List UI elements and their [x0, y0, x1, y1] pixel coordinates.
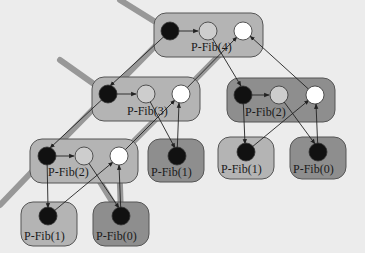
label-fib3: P-Fib(3) [127, 104, 168, 118]
edges [47, 31, 318, 216]
pfib-dag: P-Fib(4) P-Fib(3) P-Fib(2) P-Fib(2) P-Fi… [0, 0, 365, 253]
strand-gray-fib2-left [75, 147, 93, 165]
strand-white-fib2-right [306, 86, 324, 104]
strand-gray-fib3 [137, 85, 155, 103]
strand-black-fib1-bottom [39, 207, 57, 225]
label-fib1-right: P-Fib(1) [221, 162, 262, 176]
label-fib0-bottom: P-Fib(0) [96, 229, 137, 243]
strand-black-fib1-middle [168, 147, 186, 165]
strand-black-fib0-bottom [112, 207, 130, 225]
label-fib2-right: P-Fib(2) [245, 105, 286, 119]
strand-black-fib0-right [309, 143, 327, 161]
strand-black-fib4 [161, 22, 179, 40]
strand-gray-fib4 [199, 22, 217, 40]
strand-white-fib3 [172, 85, 190, 103]
strand-white-fib4 [234, 22, 252, 40]
strand-black-fib3 [99, 85, 117, 103]
strand-black-fib2-left [38, 147, 56, 165]
label-fib0-right: P-Fib(0) [293, 162, 334, 176]
strand-black-fib2-right [234, 86, 252, 104]
strand-gray-fib2-right [270, 86, 288, 104]
label-fib1-middle: P-Fib(1) [151, 165, 192, 179]
label-fib2-left: P-Fib(2) [48, 165, 89, 179]
label-fib1-bottom: P-Fib(1) [24, 229, 65, 243]
strand-white-fib2-left [110, 147, 128, 165]
label-fib4: P-Fib(4) [191, 40, 232, 54]
strand-black-fib1-right [237, 143, 255, 161]
